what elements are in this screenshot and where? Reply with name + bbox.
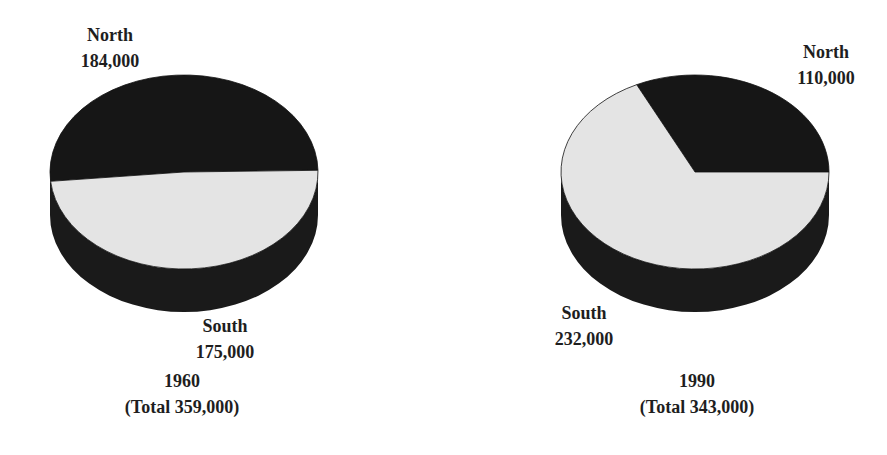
label-1990-north-name: North bbox=[797, 39, 855, 65]
label-1990-south-name: South bbox=[555, 300, 614, 326]
caption-1960-year: 1960 bbox=[125, 368, 239, 394]
pie-slice-north bbox=[50, 75, 318, 181]
caption-1960-total: (Total 359,000) bbox=[125, 394, 239, 420]
caption-1960: 1960 (Total 359,000) bbox=[125, 368, 239, 420]
label-1960-north-name: North bbox=[81, 22, 140, 48]
label-1960-north-value: 184,000 bbox=[81, 48, 140, 74]
pie-1960 bbox=[50, 75, 318, 312]
label-1960-south-value: 175,000 bbox=[196, 339, 255, 365]
caption-1990-total: (Total 343,000) bbox=[640, 394, 754, 420]
label-1990-south: South 232,000 bbox=[555, 300, 614, 352]
pie-chart-comparison: North 184,000 South 175,000 1960 (Total … bbox=[0, 0, 887, 455]
caption-1990: 1990 (Total 343,000) bbox=[640, 368, 754, 420]
label-1990-north: North 110,000 bbox=[797, 39, 855, 91]
label-1990-south-value: 232,000 bbox=[555, 326, 614, 352]
caption-1990-year: 1990 bbox=[640, 368, 754, 394]
label-1990-north-value: 110,000 bbox=[797, 65, 855, 91]
label-1960-south: South 175,000 bbox=[196, 313, 255, 365]
pie-1990 bbox=[561, 75, 829, 312]
label-1960-north: North 184,000 bbox=[81, 22, 140, 74]
label-1960-south-name: South bbox=[196, 313, 255, 339]
